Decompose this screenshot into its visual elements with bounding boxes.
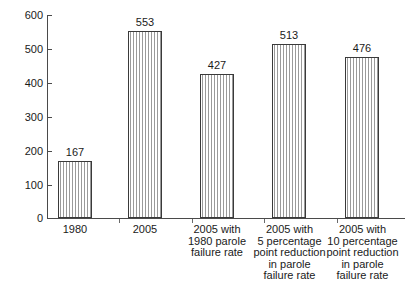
x-tick-mark-4 — [337, 219, 338, 223]
category-label-3-line-1: 2005 with — [177, 224, 257, 236]
bar-2005-5pp-reduction — [272, 44, 306, 218]
x-tick-mark-1 — [119, 219, 120, 223]
y-tick-label-200: 200 — [11, 146, 43, 157]
bar-2005-10pp-reduction — [345, 57, 379, 218]
bar-1980 — [58, 161, 92, 218]
y-tick-mark-100 — [48, 185, 52, 186]
category-label-2005-1980-parole-failure-rate: 2005 with 1980 parole failure rate — [177, 224, 257, 259]
x-tick-mark-3 — [264, 219, 265, 223]
category-label-3-line-3: failure rate — [177, 247, 257, 259]
category-label-5-line-1: 2005 with — [320, 224, 405, 236]
category-label-2005-line-1: 2005 — [115, 224, 175, 236]
bar-value-2005: 553 — [120, 17, 170, 28]
y-tick-label-400: 400 — [11, 78, 43, 89]
bar-value-1980: 167 — [50, 147, 100, 158]
y-tick-label-300: 300 — [11, 112, 43, 123]
bar-2005-1980-parole-failure-rate — [200, 74, 234, 218]
bar-value-2005-10pp-reduction: 476 — [337, 43, 387, 54]
y-tick-mark-400 — [48, 83, 52, 84]
category-label-2005: 2005 — [115, 224, 175, 236]
bar-2005 — [128, 31, 162, 218]
y-tick-label-0: 0 — [11, 213, 43, 224]
y-tick-mark-500 — [48, 49, 52, 50]
y-tick-label-100: 100 — [11, 180, 43, 191]
bar-value-2005-5pp-reduction: 513 — [264, 30, 314, 41]
y-tick-mark-0 — [48, 218, 52, 219]
y-tick-label-600: 600 — [11, 10, 43, 21]
bar-chart: 600 500 400 300 200 100 0 167 553 427 51… — [0, 0, 409, 294]
y-tick-label-500: 500 — [11, 44, 43, 55]
category-label-1980-line-1: 1980 — [45, 224, 105, 236]
bar-value-2005-1980-parole-failure-rate: 427 — [192, 60, 242, 71]
x-axis-line — [47, 218, 405, 219]
category-label-1980: 1980 — [45, 224, 105, 236]
category-label-2005-10pp-reduction: 2005 with 10 percentage point reduction … — [320, 224, 405, 282]
y-tick-mark-600 — [48, 15, 52, 16]
y-tick-mark-300 — [48, 117, 52, 118]
category-label-5-line-5: failure rate — [320, 270, 405, 282]
